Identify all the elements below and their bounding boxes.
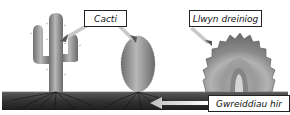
- label-cacti: Cacti: [84, 10, 127, 27]
- label-gwreiddiau-hir: Gwreiddiau hir: [208, 95, 290, 112]
- spiny-bush: [203, 33, 275, 92]
- label-llwyn-dreiniog: Llwyn dreiniog: [189, 10, 262, 27]
